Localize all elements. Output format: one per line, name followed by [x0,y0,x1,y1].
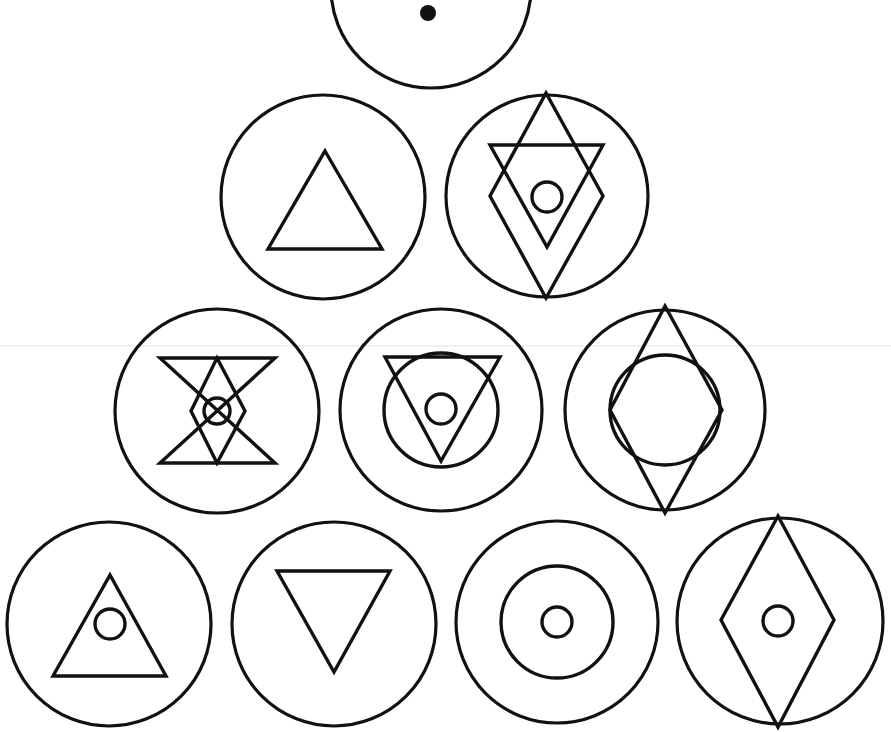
symbol-4-circle-hourglass-diamond: Circle with hourglass, diamond and small… [115,309,319,513]
small-circle [542,607,572,637]
small-circle [532,182,562,212]
diamond [721,516,834,727]
hourglass [160,358,275,463]
symbol-9-concentric-circles: Concentric circles [456,521,658,723]
symbol-2-circle-up-triangle: Circle with upward triangle [221,95,425,299]
small-circle [763,606,793,636]
outer-circle [677,518,883,724]
up-triangle [268,151,382,249]
middle-circle [384,353,498,467]
symbol-6-circle-diamond-inner-circle: Circle with diamond and inner circle [565,306,765,513]
diamond [490,93,603,298]
symbol-5-circle-down-triangle-concentric: Circle with downward triangle, middle ci… [340,309,542,511]
inner-circle [610,355,720,465]
small-circle [95,609,125,639]
outer-circle [7,522,211,726]
outer-circle [221,95,425,299]
outer-circle [340,309,542,511]
symbol-8-circle-down-triangle: Circle with downward triangle [232,522,436,726]
outer-circle [232,522,436,726]
diamond [610,306,722,513]
symbol-3-circle-diamond-down-triangle: Circle with diamond, downward triangle a… [446,93,648,298]
outer-circle [565,310,765,510]
symbol-10-circle-diamond-small-circle: Circle with diamond and small circle [677,516,883,727]
middle-circle [501,566,613,678]
outer-circle [446,95,648,297]
down-triangle [277,571,390,672]
outer-circle [456,521,658,723]
down-triangle [490,145,603,247]
symbol-pyramid-diagram: Circle with central point Circle with up… [0,0,891,732]
up-triangle [53,575,166,676]
symbol-1-circle-with-point: Circle with central point [331,0,531,88]
small-circle [426,394,456,424]
symbol-7-circle-up-triangle-small-circle: Circle with upward triangle and small ci… [7,522,211,726]
center-dot [420,5,436,21]
